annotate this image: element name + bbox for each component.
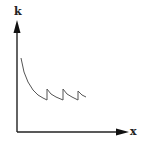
chart bbox=[0, 0, 143, 144]
y-axis-arrow-icon bbox=[14, 20, 21, 33]
x-axis-label: x bbox=[130, 126, 137, 137]
y-axis-label: k bbox=[14, 6, 22, 17]
x-axis-arrow-icon bbox=[116, 129, 129, 136]
decay-sawtooth-curve bbox=[21, 58, 86, 100]
